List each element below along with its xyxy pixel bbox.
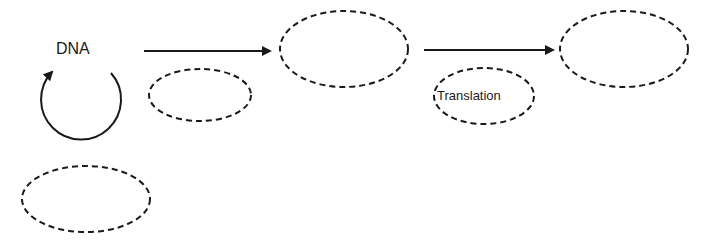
diagram-canvas: DNA Translation: [0, 0, 704, 252]
translation-label: Translation: [437, 88, 501, 103]
blank-ellipse-rna[interactable]: [280, 11, 408, 87]
dna-label: DNA: [56, 40, 90, 58]
diagram-svg: [0, 0, 704, 252]
blank-ellipse-transcription[interactable]: [149, 69, 251, 121]
blank-ellipse-replication[interactable]: [22, 166, 150, 232]
replication-cycle-arrow: [41, 72, 121, 140]
blank-ellipse-protein[interactable]: [560, 11, 688, 87]
